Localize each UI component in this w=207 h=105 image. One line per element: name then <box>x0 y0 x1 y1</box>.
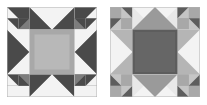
br-white-square <box>86 86 97 97</box>
r-br-q4 <box>178 75 189 86</box>
r-tl-q1 <box>110 7 121 18</box>
r-tl-q4 <box>121 18 132 29</box>
r-tr-q4 <box>178 18 189 29</box>
quilt-blocks-canvas <box>0 0 207 105</box>
quilt-block-left-svg <box>7 7 97 97</box>
center-inner-right <box>135 32 175 72</box>
r-tr-q1 <box>189 7 200 18</box>
quilt-block-right-svg <box>110 7 200 97</box>
quilt-block-right[interactable] <box>110 7 200 97</box>
quilt-block-left[interactable] <box>7 7 97 97</box>
r-bl-q4 <box>121 75 132 86</box>
r-bl-q1 <box>110 86 121 97</box>
r-br-q1 <box>189 86 200 97</box>
